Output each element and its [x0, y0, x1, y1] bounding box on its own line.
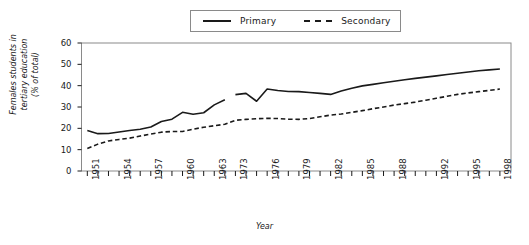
x-tick-label: 1951 [91, 158, 101, 180]
x-tick-label: 1998 [503, 158, 513, 180]
x-tick-label: 1982 [334, 158, 344, 180]
y-axis-title-line-3: (% of total) [30, 15, 41, 135]
y-axis-ticks [78, 43, 82, 171]
x-axis-title: Year [0, 222, 529, 231]
x-tick-label: 1954 [123, 158, 133, 180]
x-tick-label: 1976 [271, 158, 281, 180]
legend-entry-secondary: Secondary [304, 11, 390, 31]
x-tick-label: 1957 [154, 158, 164, 180]
y-tick-label: 40 [46, 81, 72, 91]
x-tick-label: 1973 [239, 158, 249, 180]
y-axis-title-line-1: Females students in [8, 15, 19, 135]
y-tick-label: 0 [46, 166, 72, 176]
y-axis-title: Females students in tertiary education (… [8, 15, 41, 135]
legend-label-primary: Primary [240, 16, 276, 26]
chart-canvas [0, 0, 529, 245]
y-tick-label: 30 [46, 102, 72, 112]
legend-solid-line-icon [203, 16, 231, 26]
y-tick-label: 60 [46, 38, 72, 48]
x-tick-label: 1992 [440, 158, 450, 180]
series-line-primary [87, 100, 225, 134]
y-tick-label: 50 [46, 59, 72, 69]
y-tick-label: 10 [46, 145, 72, 155]
y-axis-title-line-2: tertiary education [19, 15, 30, 135]
plot-frame [82, 43, 512, 171]
x-tick-label: 1960 [186, 158, 196, 180]
legend-label-secondary: Secondary [341, 16, 390, 26]
y-tick-label: 20 [46, 123, 72, 133]
x-axis-ticks [87, 171, 500, 176]
legend-dashed-line-icon [304, 16, 332, 26]
series-line-primary [235, 69, 499, 101]
x-tick-label: 1979 [302, 158, 312, 180]
x-tick-label: 1995 [472, 158, 482, 180]
x-tick-label: 1985 [366, 158, 376, 180]
x-tick-label: 1963 [218, 158, 228, 180]
x-tick-label: 1988 [398, 158, 408, 180]
legend-entry-primary: Primary [203, 11, 276, 31]
chart-legend: Primary Secondary [190, 10, 401, 32]
chart-figure: Primary Secondary Females students in te… [0, 0, 529, 245]
series-line-secondary [87, 89, 500, 149]
data-series-layer [87, 69, 500, 149]
